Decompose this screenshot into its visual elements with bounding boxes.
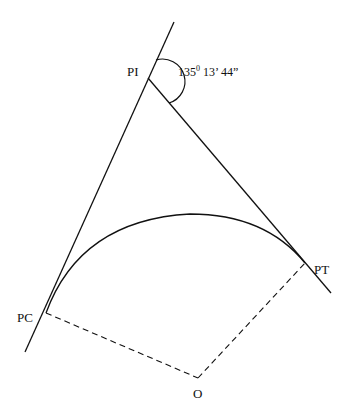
back-tangent-line: [25, 22, 174, 352]
curve-arc: [46, 214, 305, 313]
angle-degrees: 135: [178, 65, 196, 79]
pc-label: PC: [17, 310, 33, 325]
radius-pc-line: [46, 313, 198, 378]
pt-label: PT: [314, 262, 329, 277]
pi-label: PI: [127, 64, 139, 79]
curve-diagram: PI PC PT O 1350 13’ 44”: [0, 0, 352, 415]
angle-minutes: 13’: [200, 65, 219, 79]
angle-seconds: 44”: [219, 65, 239, 79]
center-label: O: [193, 386, 202, 401]
radius-pt-line: [198, 263, 305, 378]
deflection-angle-label: 1350 13’ 44”: [178, 64, 238, 79]
